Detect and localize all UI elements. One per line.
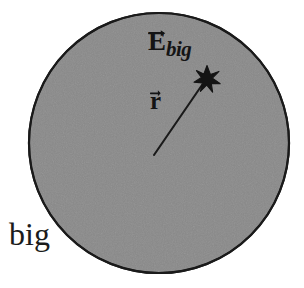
e-symbol-with-arrow: E [148,28,166,55]
electric-field-label: E big [148,28,191,60]
physics-diagram-big-sphere: E big r big [0,0,304,288]
r-symbol: r [150,87,161,114]
r-symbol-with-arrow: r [150,88,161,113]
sphere-caption: big [9,218,50,250]
e-subscript: big [166,37,191,61]
e-symbol: E [148,26,166,56]
radius-vector-label: r [150,88,161,113]
